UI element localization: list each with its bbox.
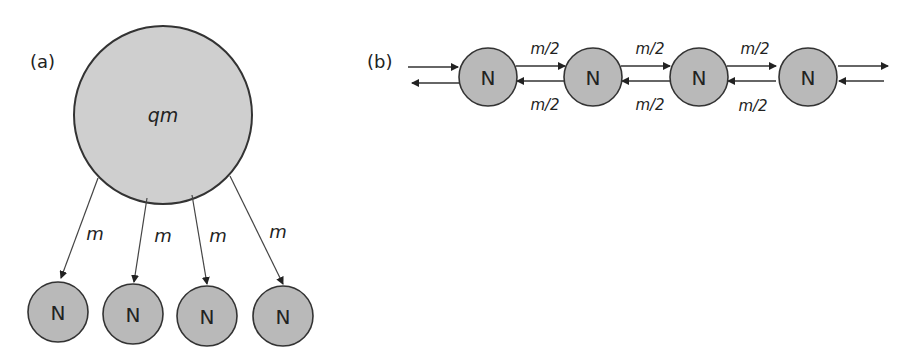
leaf-node-3-label: N <box>200 305 215 329</box>
panel-b-label: (b) <box>367 51 392 72</box>
bottom-label-3: m/2 <box>738 97 767 115</box>
edge-label-4: m <box>269 221 287 242</box>
edge-arrow-2 <box>134 198 147 282</box>
leaf-node-3: N <box>177 286 237 346</box>
leaf-node-4: N <box>253 286 313 346</box>
bottom-label-2: m/2 <box>635 96 664 114</box>
chain-node-3: N <box>670 48 728 106</box>
bottom-label-1: m/2 <box>530 96 559 114</box>
diagram-canvas: (a) qm m m m m N N N N (b) N <box>0 0 912 361</box>
leaf-node-1: N <box>28 282 88 342</box>
top-label-2: m/2 <box>635 40 664 58</box>
chain-node-1: N <box>459 48 517 106</box>
top-label-3: m/2 <box>740 40 769 58</box>
edge-label-1: m <box>86 223 104 244</box>
leaf-node-1-label: N <box>51 301 66 325</box>
chain-node-1-label: N <box>481 66 496 90</box>
top-label-1: m/2 <box>530 40 559 58</box>
panel-a-label: (a) <box>30 51 55 72</box>
chain-node-2-label: N <box>586 66 601 90</box>
edge-label-3: m <box>209 225 227 246</box>
hub-label: qm <box>148 104 179 126</box>
leaf-node-2: N <box>103 284 163 344</box>
chain-node-2: N <box>564 48 622 106</box>
edge-label-2: m <box>154 225 172 246</box>
chain-node-3-label: N <box>692 66 707 90</box>
chain-node-4-label: N <box>801 66 816 90</box>
leaf-node-4-label: N <box>276 305 291 329</box>
leaf-node-2-label: N <box>126 303 141 327</box>
edge-arrow-3 <box>192 195 207 284</box>
chain-node-4: N <box>779 48 837 106</box>
